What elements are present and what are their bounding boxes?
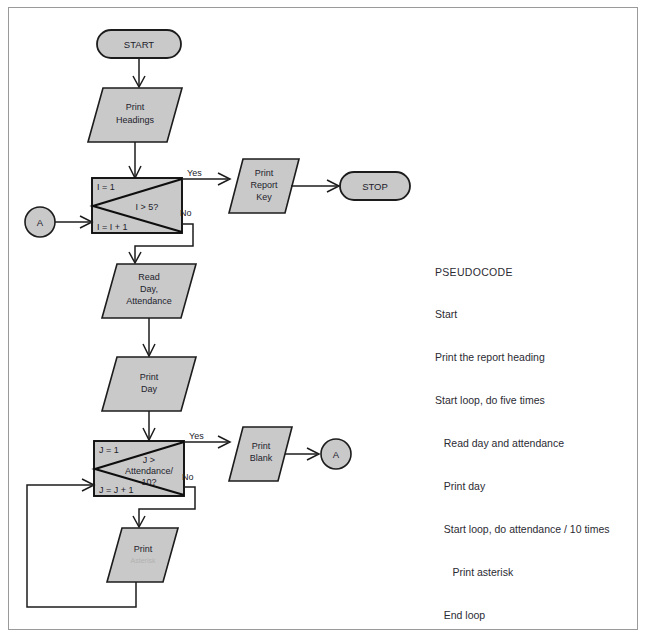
pseudocode-line: Print the report heading [435,350,635,364]
outer-loop-condition: I > 5? [136,202,159,212]
read-line2: Day, [140,284,158,294]
edge-start-to-print-headings [133,58,145,87]
print-day-line1: Print [140,372,159,382]
outer-loop-no-label: No [180,208,192,218]
edge-print-headings-to-outer-loop [129,142,141,178]
inner-loop-cond3: 10? [141,477,156,487]
pseudocode-line: End loop [435,608,635,622]
outer-loop-init: I = 1 [97,182,115,192]
edge-connector-a-in-to-outer-loop [55,216,92,228]
node-outer-loop: I = 1 I > 5? I = I + 1 [92,178,182,233]
print-report-key-line1: Print [255,168,274,178]
inner-loop-cond2: Attendance/ [125,466,174,476]
node-connector-a-out: A [321,439,351,469]
print-asterisk-line2: Asterisk [131,557,156,564]
inner-loop-init: J = 1 [99,445,119,455]
read-line1: Read [138,272,160,282]
print-report-key-line3: Key [256,192,272,202]
pseudocode-line: Print day [435,479,635,493]
connector-a-in-label: A [37,217,44,228]
node-stop: STOP [340,172,410,200]
pseudocode-line: Start [435,307,635,321]
edge-outer-loop-yes: Yes [182,168,230,185]
node-read-day-attendance: Read Day, Attendance [102,264,196,318]
outer-loop-increment: I = I + 1 [97,222,128,232]
pseudocode-line: Start loop, do five times [435,393,635,407]
node-start: START [97,30,181,58]
pseudocode-line: Start loop, do attendance / 10 times [435,522,635,536]
outer-loop-yes-label: Yes [187,168,202,178]
flowchart-page: START Print Headings I = 1 I > 5? I = I … [0,0,647,639]
node-connector-a-in: A [25,207,55,237]
edge-inner-loop-yes: Yes [184,431,230,448]
print-report-key-line2: Report [250,180,278,190]
connector-a-out-label: A [333,449,340,460]
pseudocode-title: PSEUDOCODE [435,265,635,279]
print-headings-line1: Print [126,102,145,112]
edge-read-to-print-day [143,318,155,356]
print-headings-line2: Headings [116,115,155,125]
print-day-line2: Day [141,384,158,394]
node-print-asterisk: Print Asterisk [107,528,178,582]
inner-loop-yes-label: Yes [189,431,204,441]
node-inner-loop: J = 1 J > Attendance/ 10? J = J + 1 [94,441,184,496]
print-asterisk-line1: Print [134,544,153,554]
inner-loop-no-label: No [182,472,194,482]
pseudocode-line: Read day and attendance [435,436,635,450]
node-print-headings: Print Headings [88,88,182,142]
node-print-day: Print Day [102,357,196,411]
stop-label: STOP [362,181,388,192]
start-label: START [124,39,154,50]
print-blank-line2: Blank [250,453,273,463]
node-print-report-key: Print Report Key [229,159,299,213]
pseudocode-block: PSEUDOCODE Start Print the report headin… [435,236,635,639]
inner-loop-cond1: J > [143,455,155,465]
print-blank-line1: Print [252,441,271,451]
read-line3: Attendance [126,296,172,306]
node-print-blank: Print Blank [229,427,292,481]
pseudocode-line: Print asterisk [435,565,635,579]
edge-print-blank-to-connector-a [285,448,319,460]
inner-loop-increment: J = J + 1 [99,485,134,495]
edge-print-report-key-to-stop [291,180,339,192]
edge-print-day-to-inner-loop [143,411,155,440]
